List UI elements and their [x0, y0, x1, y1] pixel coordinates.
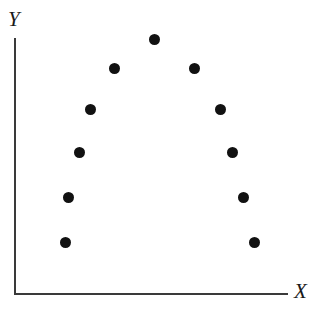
data-point	[63, 192, 74, 203]
data-point	[60, 237, 71, 248]
data-point	[238, 192, 249, 203]
data-point-layer	[0, 0, 311, 317]
data-point	[85, 104, 96, 115]
data-point	[109, 63, 120, 74]
data-point	[74, 147, 85, 158]
data-point	[189, 63, 200, 74]
data-point	[149, 34, 160, 45]
data-point	[215, 104, 226, 115]
data-point	[227, 147, 238, 158]
scatter-plot-figure: Y X	[0, 0, 311, 317]
data-point	[249, 237, 260, 248]
